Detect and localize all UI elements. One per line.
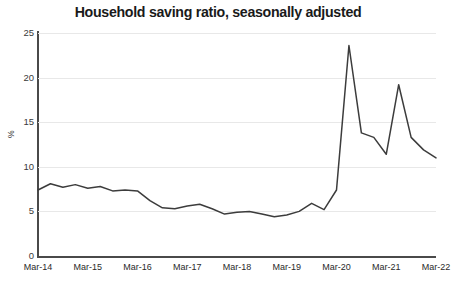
chart-title: Household saving ratio, seasonally adjus… (0, 4, 436, 20)
x-axis-tick-label: Mar-21 (363, 262, 409, 272)
x-axis-tick-label: Mar-16 (115, 262, 161, 272)
y-axis-tick-label: 10 (4, 161, 34, 172)
saving-ratio-line-series (38, 33, 436, 256)
x-axis-tick-label: Mar-19 (264, 262, 310, 272)
series-polyline (38, 45, 436, 216)
x-axis-tick-label: Mar-14 (15, 262, 61, 272)
x-axis-tick-label: Mar-22 (413, 262, 455, 272)
x-axis-tick-label: Mar-18 (214, 262, 260, 272)
x-axis-line (37, 256, 436, 258)
y-axis-tick-label: 25 (4, 27, 34, 38)
x-axis-tick-label: Mar-15 (65, 262, 111, 272)
y-axis-tick-label: 20 (4, 72, 34, 83)
x-axis-tick-label: Mar-20 (314, 262, 360, 272)
y-axis-tick-label: 15 (4, 116, 34, 127)
y-axis-tick-label: 0 (4, 250, 34, 261)
x-axis-tick-label: Mar-17 (164, 262, 210, 272)
y-axis-tick-label: 5 (4, 205, 34, 216)
y-axis-tick-group: 0510152025 (0, 33, 34, 256)
plot-area (38, 33, 436, 256)
